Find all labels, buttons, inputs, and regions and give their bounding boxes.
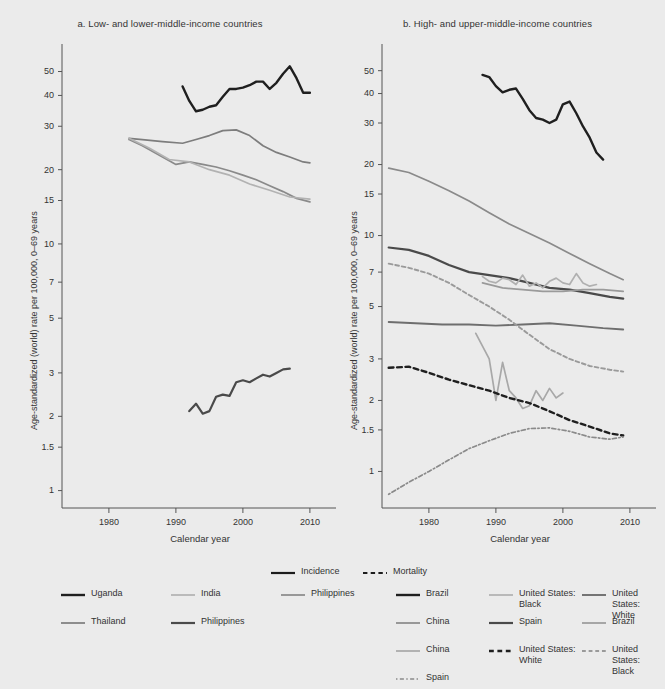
svg-text:1980: 1980 [419, 517, 439, 527]
legend-label: United States: Black [612, 644, 665, 677]
legend-line-swatch [60, 617, 86, 629]
legend-label: China [426, 616, 450, 627]
legend-a-item: Philippines [170, 616, 245, 629]
legend-line-swatch [170, 617, 196, 629]
svg-text:2000: 2000 [553, 517, 573, 527]
legend-line-swatch [395, 645, 421, 657]
legend-label: Thailand [91, 616, 126, 627]
svg-text:20: 20 [364, 159, 374, 169]
style-legend-item: Mortality [362, 566, 427, 579]
style-legend-item: Incidence [270, 566, 340, 579]
legend-label: United States: White [519, 644, 576, 666]
legend-line-swatch [395, 589, 421, 601]
legend-a-item: Philippines [280, 588, 355, 601]
legend-label: Spain [519, 616, 542, 627]
svg-text:2: 2 [369, 395, 374, 405]
legend-b-item: United States: Black [581, 644, 665, 677]
series-line [476, 333, 563, 408]
legend-label: Incidence [301, 566, 340, 577]
svg-text:5: 5 [369, 301, 374, 311]
legend-line-swatch [280, 589, 306, 601]
svg-text:15: 15 [364, 189, 374, 199]
series-line [389, 322, 624, 329]
legend-b-item: Spain [488, 616, 542, 629]
svg-text:7: 7 [369, 267, 374, 277]
legend-line-swatch [395, 617, 421, 629]
legend-line-swatch [581, 589, 607, 601]
series-line [483, 75, 604, 160]
legend-label: Mortality [393, 566, 427, 577]
series-line [389, 264, 624, 372]
legend-a-item: Thailand [60, 616, 126, 629]
svg-text:40: 40 [364, 88, 374, 98]
legend-label: Uganda [91, 588, 123, 599]
series-line [389, 428, 624, 494]
legend-b-item: China [395, 616, 450, 629]
legend-label: India [201, 588, 221, 599]
legend-b-item: Brazil [581, 616, 635, 629]
svg-text:30: 30 [364, 118, 374, 128]
legend-b-item: Spain [395, 672, 449, 685]
legend-label: Brazil [426, 588, 449, 599]
legend-line-swatch [488, 617, 514, 629]
legend-b-item: Brazil [395, 588, 449, 601]
legend-b-item: China [395, 644, 450, 657]
svg-text:1990: 1990 [486, 517, 506, 527]
legend-line-swatch [581, 617, 607, 629]
figure-canvas: a. Low- and lower-middle-income countrie… [0, 0, 665, 689]
legend-label: Philippines [311, 588, 355, 599]
panel-b-plot: 11.523571015203040501980199020002010 [0, 0, 665, 560]
legend-line-swatch [581, 645, 607, 657]
svg-text:1.5: 1.5 [361, 425, 374, 435]
svg-text:3: 3 [369, 354, 374, 364]
legend-label: Brazil [612, 616, 635, 627]
legend-a-item: Uganda [60, 588, 123, 601]
legend-b-item: United States: White [488, 644, 576, 666]
svg-text:10: 10 [364, 230, 374, 240]
legend-line-swatch [270, 567, 296, 579]
legend-line-swatch [488, 589, 514, 601]
legend-b-item: United States: Black [488, 588, 576, 610]
legend-a-item: India [170, 588, 221, 601]
legend-line-swatch [362, 567, 388, 579]
svg-text:50: 50 [364, 66, 374, 76]
svg-text:2010: 2010 [620, 517, 640, 527]
legend-line-swatch [170, 589, 196, 601]
legend-label: China [426, 644, 450, 655]
legend-line-swatch [60, 589, 86, 601]
series-line [389, 168, 624, 280]
legend-line-swatch [488, 645, 514, 657]
legend-label: Spain [426, 672, 449, 683]
legend-label: United States: Black [519, 588, 576, 610]
legend-line-swatch [395, 673, 421, 685]
svg-text:1: 1 [369, 466, 374, 476]
legend-label: Philippines [201, 616, 245, 627]
